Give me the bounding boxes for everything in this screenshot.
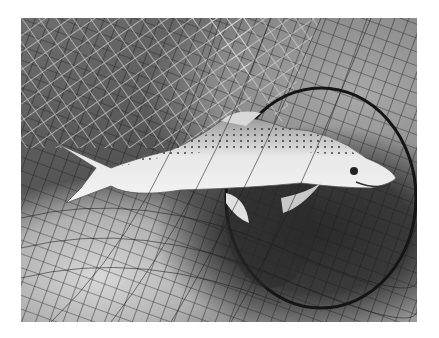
trout-photo — [21, 18, 417, 322]
trout-in-net-illustration — [21, 18, 417, 322]
